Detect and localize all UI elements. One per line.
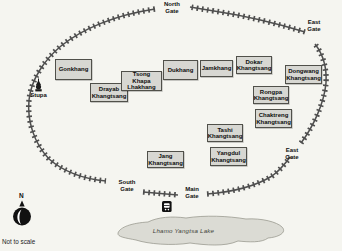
stupa-icon: [35, 79, 41, 92]
gate-label-main: Main Gate: [178, 186, 206, 200]
monastery-map: North Gate East Gate East Gate South Gat…: [0, 0, 342, 251]
gate-label-east-south: East Gate: [279, 147, 305, 161]
building-chaktreng-khangtsang: Chaktreng Khangtsang: [255, 109, 292, 128]
compass-north-label: N: [19, 192, 24, 199]
scale-note: Not to scale: [2, 238, 35, 245]
lake-label: Lhamo Yangtsa Lake: [146, 227, 221, 234]
building-jamkhang: Jamkhang: [200, 60, 233, 77]
gate-label-east-north: East Gate: [301, 19, 327, 33]
bus-stop-icon: [162, 201, 172, 212]
stupa-label: Stupa: [26, 92, 51, 98]
building-jang-khangtsang: Jang Khangtsang: [147, 151, 184, 168]
building-tashi-khangtsang: Tashi Khangtsang: [207, 124, 243, 142]
building-dukhang: Dukhang: [163, 60, 198, 80]
building-tsong-khapa-lhakhang: Tsong Khapa Lhakhang: [121, 71, 162, 91]
building-rongpa-khangtsang: Rongpa Khangtsang: [253, 86, 289, 104]
building-yangdul-khangtsang: Yangdul Khangtsang: [210, 147, 247, 166]
building-gonkhang: Gonkhang: [55, 59, 92, 80]
building-dokar-khangtsang: Dokar Khangtsang: [236, 56, 272, 74]
building-dongwang-khangtsang: Dongwang Khangtsang: [285, 65, 322, 84]
compass-north-icon: [13, 201, 31, 226]
gate-label-south: South Gate: [113, 179, 141, 193]
gate-label-north: North Gate: [157, 1, 187, 15]
